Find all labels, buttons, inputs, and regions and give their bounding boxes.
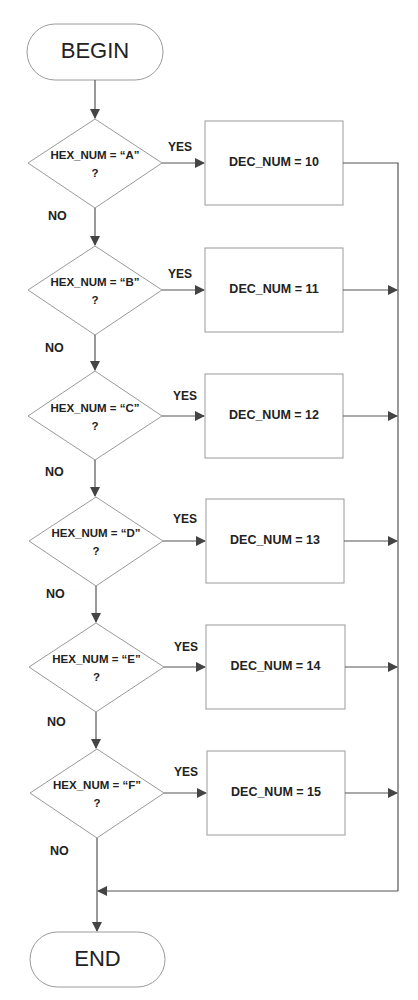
no-label-f: NO (50, 844, 69, 858)
flowchart-canvas: BEGIN END HEX_NUM = “A” ? DEC_NUM = 10 Y… (0, 0, 418, 1000)
decision-d-question: ? (29, 542, 163, 560)
process-c-label: DEC_NUM = 12 (205, 408, 343, 422)
yes-label-b: YES (168, 267, 192, 281)
end-label: END (30, 946, 165, 972)
yes-label-c: YES (173, 389, 197, 403)
process-a-label: DEC_NUM = 10 (205, 155, 343, 169)
decision-c-label: HEX_NUM = “C” ? (28, 399, 162, 435)
decision-f-label: HEX_NUM = “F” ? (30, 776, 164, 812)
decision-a-label: HEX_NUM = “A” ? (28, 146, 162, 182)
decision-e-label: HEX_NUM = “E” ? (29, 650, 164, 686)
yes-label-e: YES (174, 640, 198, 654)
decision-c-question: ? (28, 417, 162, 435)
process-b-label: DEC_NUM = 11 (205, 282, 343, 296)
decision-f-question: ? (30, 794, 164, 812)
decision-e-question: ? (29, 668, 164, 686)
process-f-label: DEC_NUM = 15 (207, 785, 345, 799)
no-label-c: NO (45, 465, 64, 479)
decision-b-label: HEX_NUM = “B” ? (28, 273, 162, 309)
decision-b-condition: HEX_NUM = “B” (28, 273, 162, 291)
begin-label: BEGIN (27, 38, 163, 64)
no-label-d: NO (46, 587, 65, 601)
decision-e-condition: HEX_NUM = “E” (29, 650, 164, 668)
decision-c-condition: HEX_NUM = “C” (28, 399, 162, 417)
decision-a-condition: HEX_NUM = “A” (28, 146, 162, 164)
no-label-e: NO (47, 715, 66, 729)
yes-label-a: YES (168, 140, 192, 154)
decision-d-condition: HEX_NUM = “D” (29, 524, 163, 542)
process-d-label: DEC_NUM = 13 (206, 533, 344, 547)
no-label-a: NO (48, 209, 67, 223)
no-label-b: NO (45, 341, 64, 355)
decision-a-question: ? (28, 164, 162, 182)
process-e-label: DEC_NUM = 14 (206, 659, 345, 673)
decision-b-question: ? (28, 291, 162, 309)
yes-label-f: YES (174, 765, 198, 779)
yes-label-d: YES (173, 512, 197, 526)
return-connector-main (343, 163, 398, 891)
decision-f-condition: HEX_NUM = “F” (30, 776, 164, 794)
decision-d-label: HEX_NUM = “D” ? (29, 524, 163, 560)
